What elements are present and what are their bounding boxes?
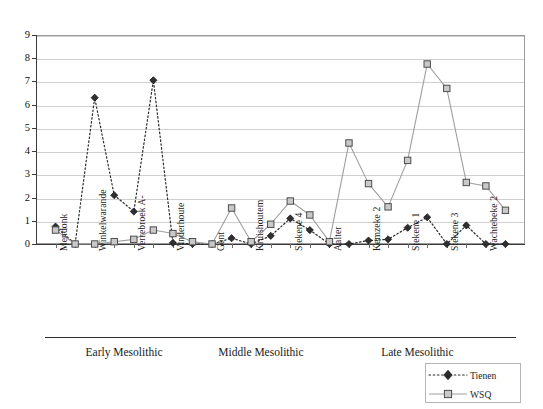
x-label-vinderhoute: Vinderhoute	[176, 203, 186, 251]
legend-swatch-solid-square-icon	[426, 385, 470, 403]
x-label-stekene-3: Stekene 3	[450, 213, 460, 251]
legend-label-tienen: Tienen	[470, 370, 496, 381]
x-label-stekene-4: Stekene 4	[294, 213, 304, 251]
x-label-verrebroek-a: Verrebroek A-	[137, 195, 147, 251]
chart-legend: Tienen WSQ	[425, 363, 521, 403]
x-label-gent: Gent	[216, 232, 226, 251]
period-rule-0	[45, 337, 203, 338]
x-label-wachtebeke-2: Wachtebeke 2	[489, 196, 499, 251]
legend-swatch-dotted-diamond-icon	[426, 366, 470, 384]
x-label-kemzeke-2: Kemzeke 2	[372, 207, 382, 251]
x-label-mendonk: Mendonk	[59, 214, 69, 251]
period-rule-2	[319, 337, 517, 338]
x-label-stekene-1: Stekene 1	[411, 213, 421, 251]
x-label-aalter: Aalter	[333, 226, 343, 251]
period-rule-1	[201, 337, 320, 338]
legend-label-wsq: WSQ	[470, 389, 491, 400]
legend-item-tienen: Tienen	[426, 365, 522, 385]
legend-item-wsq: WSQ	[426, 384, 522, 404]
x-label-kruishoutem: Kruishoutem	[255, 200, 265, 251]
x-label-winkelwarande: Winkelwarande	[98, 189, 108, 251]
period-label-middle-mesolithic: Middle Mesolithic	[201, 346, 320, 358]
period-label-early-mesolithic: Early Mesolithic	[45, 346, 203, 358]
period-label-late-mesolithic: Late Mesolithic	[319, 346, 517, 358]
mesolithic-site-line-chart: 0123456789 MendonkWinkelwarandeVerrebroe…	[0, 0, 543, 409]
